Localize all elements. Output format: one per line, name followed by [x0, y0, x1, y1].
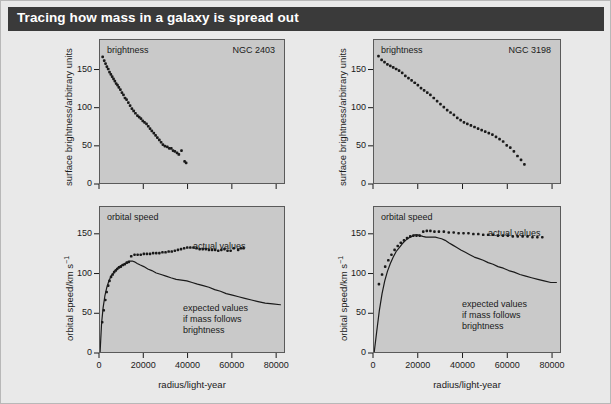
ytick-speed-left-100: 100 [59, 268, 92, 278]
axis-label-speed-y-left-exponent: −1 [63, 256, 70, 264]
annotation-expected-values-left-line2: if mass follows [183, 314, 248, 325]
ytick-brightness-left-150: 150 [59, 64, 92, 74]
ytick-brightness-left-100: 100 [59, 102, 92, 112]
annotation-expected-values-right-line1: expected values [462, 299, 527, 310]
annotation-expected-values-left-line3: brightness [183, 325, 248, 336]
ytick-speed-right-150: 150 [333, 228, 366, 238]
annotation-brightness-right: brightness [381, 45, 423, 55]
ytick-speed-left-150: 150 [59, 228, 92, 238]
annotation-expected-values-right: expected values if mass follows brightne… [462, 299, 527, 332]
plot-area-ngc3198-rotation: orbital speed actual values expected val… [373, 206, 561, 353]
ytick-speed-right-100: 100 [333, 268, 366, 278]
annotation-expected-values-left: expected values if mass follows brightne… [183, 303, 248, 336]
axis-label-radius-x-left: radius/light-year [99, 379, 285, 390]
xtick-radius-right-80000: 80000 [522, 360, 582, 370]
annotation-actual-values-left: actual values [193, 241, 246, 251]
ytick-brightness-right-150: 150 [333, 64, 366, 74]
annotation-actual-values-right: actual values [488, 228, 541, 238]
galaxy-name-ngc3198-top: NGC 3198 [508, 45, 551, 55]
ytick-speed-left-0: 0 [59, 347, 92, 357]
plot-area-ngc2403-rotation: orbital speed actual values expected val… [99, 206, 285, 353]
page-title: Tracing how mass in a galaxy is spread o… [17, 10, 299, 25]
ytick-brightness-right-50: 50 [333, 140, 366, 150]
annotation-brightness-left: brightness [107, 45, 149, 55]
annotation-expected-values-left-line1: expected values [183, 303, 248, 314]
ytick-brightness-right-100: 100 [333, 102, 366, 112]
figure-container: Tracing how mass in a galaxy is spread o… [0, 0, 611, 404]
ytick-brightness-right-0: 0 [333, 178, 366, 188]
ytick-brightness-left-0: 0 [59, 178, 92, 188]
ytick-speed-left-50: 50 [59, 307, 92, 317]
axis-label-radius-x-right: radius/light-year [373, 379, 561, 390]
plot-area-ngc2403-brightness: brightness NGC 2403 [99, 39, 285, 184]
ytick-speed-right-50: 50 [333, 307, 366, 317]
galaxy-name-ngc2403-top: NGC 2403 [232, 45, 275, 55]
xtick-radius-left-80000: 80000 [246, 360, 306, 370]
axis-label-speed-y-right-exponent: −1 [337, 256, 344, 264]
annotation-orbital-speed-left: orbital speed [107, 212, 159, 222]
annotation-expected-values-right-line2: if mass follows [462, 310, 527, 321]
annotation-orbital-speed-right: orbital speed [381, 212, 433, 222]
annotation-expected-values-right-line3: brightness [462, 321, 527, 332]
ytick-brightness-left-50: 50 [59, 140, 92, 150]
plot-area-ngc3198-brightness: brightness NGC 3198 [373, 39, 561, 184]
ytick-speed-right-0: 0 [333, 347, 366, 357]
